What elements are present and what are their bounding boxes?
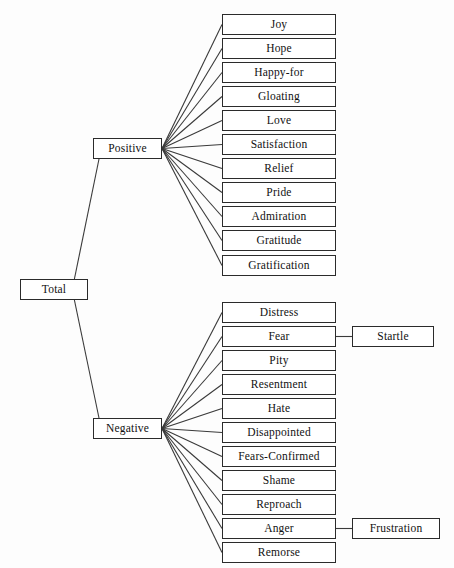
subleaf-frustration[interactable]: Frustration <box>352 518 440 539</box>
edge-negative-anger <box>162 429 222 529</box>
node-label: Love <box>267 115 291 127</box>
node-label: Pride <box>266 187 291 199</box>
edge-positive-satisfaction <box>162 145 222 149</box>
leaf-relief[interactable]: Relief <box>222 158 336 179</box>
leaf-gratification[interactable]: Gratification <box>222 255 336 276</box>
edge-positive-pride <box>162 149 222 193</box>
node-label: Positive <box>108 143 147 155</box>
leaf-distress[interactable]: Distress <box>222 302 336 323</box>
node-label: Joy <box>271 19 288 31</box>
node-label: Frustration <box>370 523 423 535</box>
leaf-resentment[interactable]: Resentment <box>222 374 336 395</box>
node-label: Hate <box>268 403 291 415</box>
leaf-love[interactable]: Love <box>222 110 336 131</box>
leaf-admiration[interactable]: Admiration <box>222 206 336 227</box>
edge-total-positive <box>74 159 99 279</box>
leaf-satisfaction[interactable]: Satisfaction <box>222 134 336 155</box>
leaf-joy[interactable]: Joy <box>222 14 336 35</box>
node-label: Pity <box>269 355 288 367</box>
edge-negative-hate <box>162 409 222 429</box>
subleaf-startle[interactable]: Startle <box>352 326 434 347</box>
leaf-shame[interactable]: Shame <box>222 470 336 491</box>
node-label: Startle <box>377 331 408 343</box>
edge-negative-fears-confirmed <box>162 429 222 457</box>
edge-negative-fear <box>162 337 222 429</box>
edge-positive-gratitude <box>162 149 222 241</box>
edge-negative-remorse <box>162 429 222 553</box>
edge-positive-gloating <box>162 97 222 149</box>
edge-positive-admiration <box>162 149 222 217</box>
edge-positive-happy-for <box>162 73 222 149</box>
node-positive[interactable]: Positive <box>93 138 162 159</box>
edge-positive-joy <box>162 25 222 149</box>
leaf-anger[interactable]: Anger <box>222 518 336 539</box>
node-label: Shame <box>263 475 295 487</box>
node-label: Admiration <box>251 211 306 223</box>
edge-positive-love <box>162 121 222 149</box>
edge-negative-pity <box>162 361 222 429</box>
node-label: Distress <box>260 307 299 319</box>
leaf-gratitude[interactable]: Gratitude <box>222 230 336 251</box>
leaf-remorse[interactable]: Remorse <box>222 542 336 563</box>
leaf-pity[interactable]: Pity <box>222 350 336 371</box>
edge-negative-distress <box>162 313 222 429</box>
leaf-fears-confirmed[interactable]: Fears-Confirmed <box>222 446 336 467</box>
node-label: Gratification <box>248 260 309 272</box>
leaf-pride[interactable]: Pride <box>222 182 336 203</box>
edge-positive-relief <box>162 149 222 169</box>
edge-negative-disappointed <box>162 429 222 433</box>
node-label: Remorse <box>258 547 300 559</box>
node-label: Fears-Confirmed <box>238 451 320 463</box>
leaf-disappointed[interactable]: Disappointed <box>222 422 336 443</box>
node-label: Resentment <box>251 379 307 391</box>
node-label: Satisfaction <box>251 139 308 151</box>
node-label: Hope <box>266 43 292 55</box>
emotion-taxonomy-diagram: TotalPositiveNegativeJoyHopeHappy-forGlo… <box>0 0 454 568</box>
node-label: Gratitude <box>256 235 301 247</box>
node-label: Fear <box>268 331 289 343</box>
edge-negative-reproach <box>162 429 222 505</box>
node-total[interactable]: Total <box>20 279 88 300</box>
leaf-hope[interactable]: Hope <box>222 38 336 59</box>
node-label: Happy-for <box>254 67 304 79</box>
edge-positive-gratification <box>162 149 222 266</box>
leaf-hate[interactable]: Hate <box>222 398 336 419</box>
edge-total-negative <box>74 300 99 418</box>
node-label: Reproach <box>256 499 302 511</box>
node-negative[interactable]: Negative <box>93 418 162 439</box>
edge-negative-shame <box>162 429 222 481</box>
node-label: Anger <box>264 523 294 535</box>
node-label: Negative <box>106 423 149 435</box>
node-label: Relief <box>264 163 293 175</box>
leaf-fear[interactable]: Fear <box>222 326 336 347</box>
node-label: Gloating <box>258 91 300 103</box>
leaf-gloating[interactable]: Gloating <box>222 86 336 107</box>
edge-negative-resentment <box>162 385 222 429</box>
leaf-reproach[interactable]: Reproach <box>222 494 336 515</box>
leaf-happy-for[interactable]: Happy-for <box>222 62 336 83</box>
node-label: Total <box>42 284 66 296</box>
node-label: Disappointed <box>247 427 311 439</box>
edge-positive-hope <box>162 49 222 149</box>
